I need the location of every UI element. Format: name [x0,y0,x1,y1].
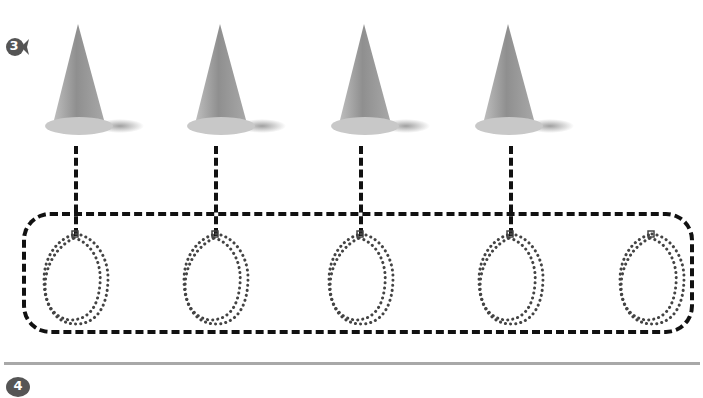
cone-icon [326,20,436,142]
bead-loop-icon [471,228,551,332]
bead-loop[interactable] [471,228,551,338]
bead-loop[interactable] [321,228,401,338]
bead-loop[interactable] [176,228,256,338]
section-divider [4,362,700,365]
bead-loop[interactable] [36,228,116,338]
section-number: 4 [6,376,30,396]
bead-loop[interactable] [612,228,692,338]
bead-loop-icon [321,228,401,332]
cone-icon [470,20,580,142]
cone-icon [40,20,150,142]
cone [470,20,550,140]
section-4-badge: 4 [6,376,28,396]
cone-icon [182,20,292,142]
bead-loop-icon [176,228,256,332]
cone [182,20,262,140]
section-number: 3 [6,36,22,56]
section-3-badge: 3 [6,36,28,56]
bead-loop-icon [612,228,692,332]
bead-loop-icon [36,228,116,332]
cone [326,20,406,140]
cone [40,20,120,140]
